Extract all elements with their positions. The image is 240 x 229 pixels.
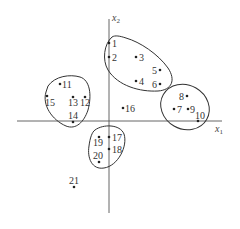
label-7: 7: [177, 104, 182, 115]
point-2: [108, 56, 111, 59]
point-8: [186, 95, 189, 98]
label-8: 8: [179, 91, 184, 102]
label-19: 19: [93, 137, 103, 148]
cluster-scatter-diagram: x2 x1 1 2 3 4 5 6: [0, 0, 240, 229]
label-2: 2: [112, 52, 117, 63]
point-3: [135, 56, 138, 59]
point-16: [122, 107, 125, 110]
point-14: [72, 121, 75, 124]
axes: [17, 19, 222, 213]
label-15: 15: [45, 97, 55, 108]
point-9: [187, 108, 190, 111]
cluster-b-outline: [152, 75, 217, 138]
label-11: 11: [62, 79, 72, 90]
label-21: 21: [69, 175, 79, 186]
label-13: 13: [68, 97, 78, 108]
label-5: 5: [152, 65, 157, 76]
label-20: 20: [93, 150, 103, 161]
point-5: [159, 69, 162, 72]
label-4: 4: [139, 76, 144, 87]
point-labels: 1 2 3 4 5 6 7 8 9 10 11 12 13 14 15 16 1…: [45, 38, 205, 186]
label-18: 18: [112, 144, 122, 155]
point-17: [108, 136, 111, 139]
point-6: [159, 83, 162, 86]
label-1: 1: [112, 38, 117, 49]
label-17: 17: [112, 132, 122, 143]
point-20: [98, 161, 101, 164]
point-11: [59, 83, 62, 86]
label-3: 3: [139, 52, 144, 63]
point-1: [108, 42, 111, 45]
point-21: [73, 186, 76, 189]
x2-axis-label: x2: [111, 12, 120, 25]
point-4: [135, 80, 138, 83]
point-18: [108, 148, 111, 151]
label-10: 10: [195, 110, 205, 121]
label-16: 16: [125, 103, 135, 114]
label-6: 6: [152, 79, 157, 90]
label-14: 14: [68, 110, 78, 121]
point-7: [173, 108, 176, 111]
label-12: 12: [80, 97, 90, 108]
x1-axis-label: x1: [214, 123, 223, 136]
